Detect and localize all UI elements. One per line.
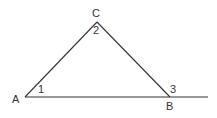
vertex-label-b: B: [166, 100, 173, 112]
triangle-diagram: C A B 2 1 3: [0, 0, 217, 118]
side-ac: [25, 22, 97, 97]
angle-label-2: 2: [93, 24, 99, 36]
angle-label-1: 1: [38, 83, 44, 95]
vertex-label-a: A: [12, 93, 20, 105]
side-cb: [97, 22, 170, 97]
vertex-label-c: C: [92, 7, 100, 19]
angle-label-3: 3: [170, 83, 176, 95]
